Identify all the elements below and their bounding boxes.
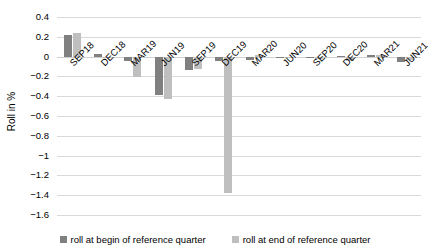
gridline xyxy=(57,175,421,176)
gridline xyxy=(57,17,421,18)
y-axis-tick-label: −1 xyxy=(38,151,49,161)
x-axis-category-label: SEP19 xyxy=(190,40,218,68)
x-axis-category-label: SEP20 xyxy=(311,40,339,68)
x-axis-category-label: JUN20 xyxy=(281,40,309,68)
y-axis-tick-label: −0.6 xyxy=(30,111,49,121)
y-axis-tick-label: −0.4 xyxy=(30,91,49,101)
x-axis-category-label: DEC20 xyxy=(341,39,370,68)
x-axis-category-label: JUN21 xyxy=(402,40,430,68)
x-axis-category-label: MAR21 xyxy=(372,38,401,67)
y-axis-ticks: 0.40.20−0.2−0.4−0.6−0.8−1−1.2−1.4−1.6 xyxy=(0,17,53,215)
x-axis-category-label: DEC19 xyxy=(220,39,249,68)
bar-chart: Roll in % 0.40.20−0.2−0.4−0.6−0.8−1−1.2−… xyxy=(0,0,430,249)
bar xyxy=(224,57,232,194)
y-axis-tick-label: −1.6 xyxy=(30,210,49,220)
x-axis-category-label: JUN19 xyxy=(159,40,187,68)
gridline xyxy=(57,76,421,77)
legend-label-end: roll at end of reference quarter xyxy=(243,234,371,245)
legend-item-begin[interactable]: roll at begin of reference quarter xyxy=(60,234,206,245)
legend-item-end[interactable]: roll at end of reference quarter xyxy=(232,234,371,245)
y-axis-tick-label: −0.2 xyxy=(30,72,49,82)
gridline xyxy=(57,96,421,97)
x-axis-category-label: DEC18 xyxy=(99,39,128,68)
legend-swatch-begin-icon xyxy=(60,236,67,243)
legend-label-begin: roll at begin of reference quarter xyxy=(71,234,206,245)
gridline xyxy=(57,116,421,117)
y-axis-tick-label: 0 xyxy=(44,52,49,62)
y-axis-tick-label: −1.2 xyxy=(30,171,49,181)
gridline xyxy=(57,136,421,137)
gridline xyxy=(57,156,421,157)
gridline xyxy=(57,215,421,216)
gridline xyxy=(57,195,421,196)
y-axis-tick-label: −0.8 xyxy=(30,131,49,141)
y-axis-tick-label: −1.4 xyxy=(30,190,49,200)
y-axis-tick-label: 0.4 xyxy=(36,12,49,22)
gridline xyxy=(57,37,421,38)
y-axis-tick-label: 0.2 xyxy=(36,32,49,42)
plot-area: SEP18DEC18MAR19JUN19SEP19DEC19MAR20JUN20… xyxy=(57,17,421,215)
legend-swatch-end-icon xyxy=(232,236,239,243)
x-axis-category-label: MAR20 xyxy=(250,38,279,67)
chart-legend: roll at begin of reference quarter roll … xyxy=(0,234,430,245)
bar xyxy=(64,35,72,57)
